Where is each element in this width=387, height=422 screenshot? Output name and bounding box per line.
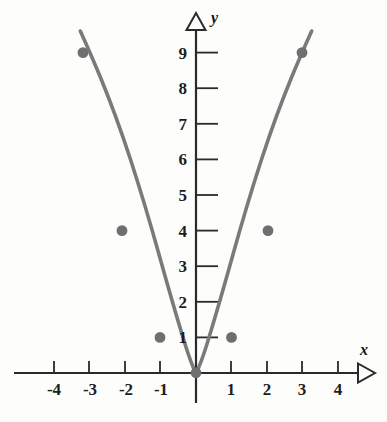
y-tick-label-4: 4 (179, 222, 188, 239)
y-axis-label: y (211, 10, 218, 26)
data-point (226, 332, 237, 343)
y-tick-label-1: 1 (179, 329, 188, 346)
y-tick-label-5: 5 (179, 187, 188, 204)
x-axis-label: x (360, 342, 368, 358)
y-axis-ticks (196, 53, 218, 338)
y-axis-arrow-icon (187, 13, 206, 30)
y-tick-label-6: 6 (179, 151, 188, 168)
y-tick-label-2: 2 (179, 293, 188, 310)
x-tick-label-neg1: -1 (154, 381, 168, 398)
y-tick-label-8: 8 (179, 80, 188, 97)
data-point (78, 47, 89, 58)
graph-figure: 1 2 3 4 5 6 7 8 9 -4 -3 -2 -1 1 2 3 4 y … (0, 0, 387, 422)
data-point (191, 367, 202, 378)
cartesian-plot (0, 0, 387, 422)
x-tick-label-3: 3 (298, 381, 307, 398)
data-point-group (78, 47, 308, 378)
x-tick-label-4: 4 (334, 381, 343, 398)
y-tick-label-3: 3 (179, 258, 188, 275)
x-tick-label-neg3: -3 (83, 381, 97, 398)
y-tick-label-7: 7 (179, 115, 188, 132)
x-tick-label-neg2: -2 (119, 381, 133, 398)
y-tick-label-9: 9 (179, 44, 188, 61)
x-tick-label-1: 1 (227, 381, 236, 398)
data-point (263, 225, 274, 236)
data-point (155, 332, 166, 343)
x-axis-arrow-icon (358, 364, 375, 383)
x-tick-label-2: 2 (263, 381, 272, 398)
data-point (117, 225, 128, 236)
x-tick-label-neg4: -4 (47, 381, 61, 398)
data-point (297, 47, 308, 58)
